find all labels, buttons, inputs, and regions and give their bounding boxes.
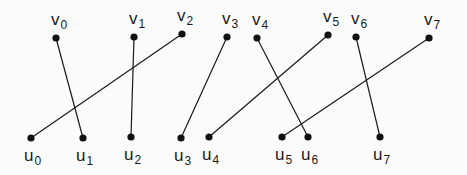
label-v6: v6 — [351, 9, 368, 31]
edge-v4-u6 — [257, 38, 308, 137]
label-v0: v0 — [51, 10, 68, 32]
bipartite-graph-diagram: v0v1v2v3v4v5v6v7u0u1u2u3u4u5u6u7 — [0, 0, 467, 175]
label-v1: v1 — [129, 9, 146, 31]
edge-v1-u2 — [131, 37, 134, 137]
node-u5 — [278, 133, 285, 140]
label-v3: v3 — [222, 9, 239, 31]
edge-v0-u1 — [56, 38, 83, 138]
label-u6: u6 — [301, 145, 318, 167]
label-u3: u3 — [174, 146, 191, 168]
node-v4 — [253, 34, 260, 41]
edge-v5-u4 — [209, 35, 328, 137]
label-u7: u7 — [373, 145, 390, 167]
edge-v6-u7 — [356, 37, 380, 137]
node-v6 — [352, 33, 359, 40]
label-u5: u5 — [275, 145, 292, 167]
node-v1 — [130, 33, 137, 40]
node-v7 — [425, 34, 432, 41]
label-v4: v4 — [252, 10, 269, 32]
node-u7 — [376, 133, 383, 140]
label-v2: v2 — [177, 6, 194, 28]
edges-layer — [31, 34, 429, 138]
node-u2 — [127, 133, 134, 140]
edge-v2-u0 — [31, 34, 182, 138]
label-v7: v7 — [424, 10, 441, 32]
node-v2 — [178, 30, 185, 37]
node-u1 — [79, 134, 86, 141]
edge-v7-u5 — [282, 38, 429, 137]
nodes-layer — [27, 30, 432, 141]
label-u2: u2 — [124, 145, 141, 167]
node-u0 — [27, 134, 34, 141]
label-u4: u4 — [202, 145, 219, 167]
node-v0 — [52, 34, 59, 41]
node-v3 — [223, 33, 230, 40]
label-v5: v5 — [323, 7, 340, 29]
node-u3 — [177, 134, 184, 141]
labels-layer: v0v1v2v3v4v5v6v7u0u1u2u3u4u5u6u7 — [24, 6, 441, 168]
label-u0: u0 — [24, 146, 41, 168]
node-u4 — [205, 133, 212, 140]
label-u1: u1 — [76, 146, 93, 168]
node-v5 — [324, 31, 331, 38]
node-u6 — [304, 133, 311, 140]
edge-v3-u3 — [181, 37, 227, 138]
graph-canvas: v0v1v2v3v4v5v6v7u0u1u2u3u4u5u6u7 — [0, 0, 467, 175]
